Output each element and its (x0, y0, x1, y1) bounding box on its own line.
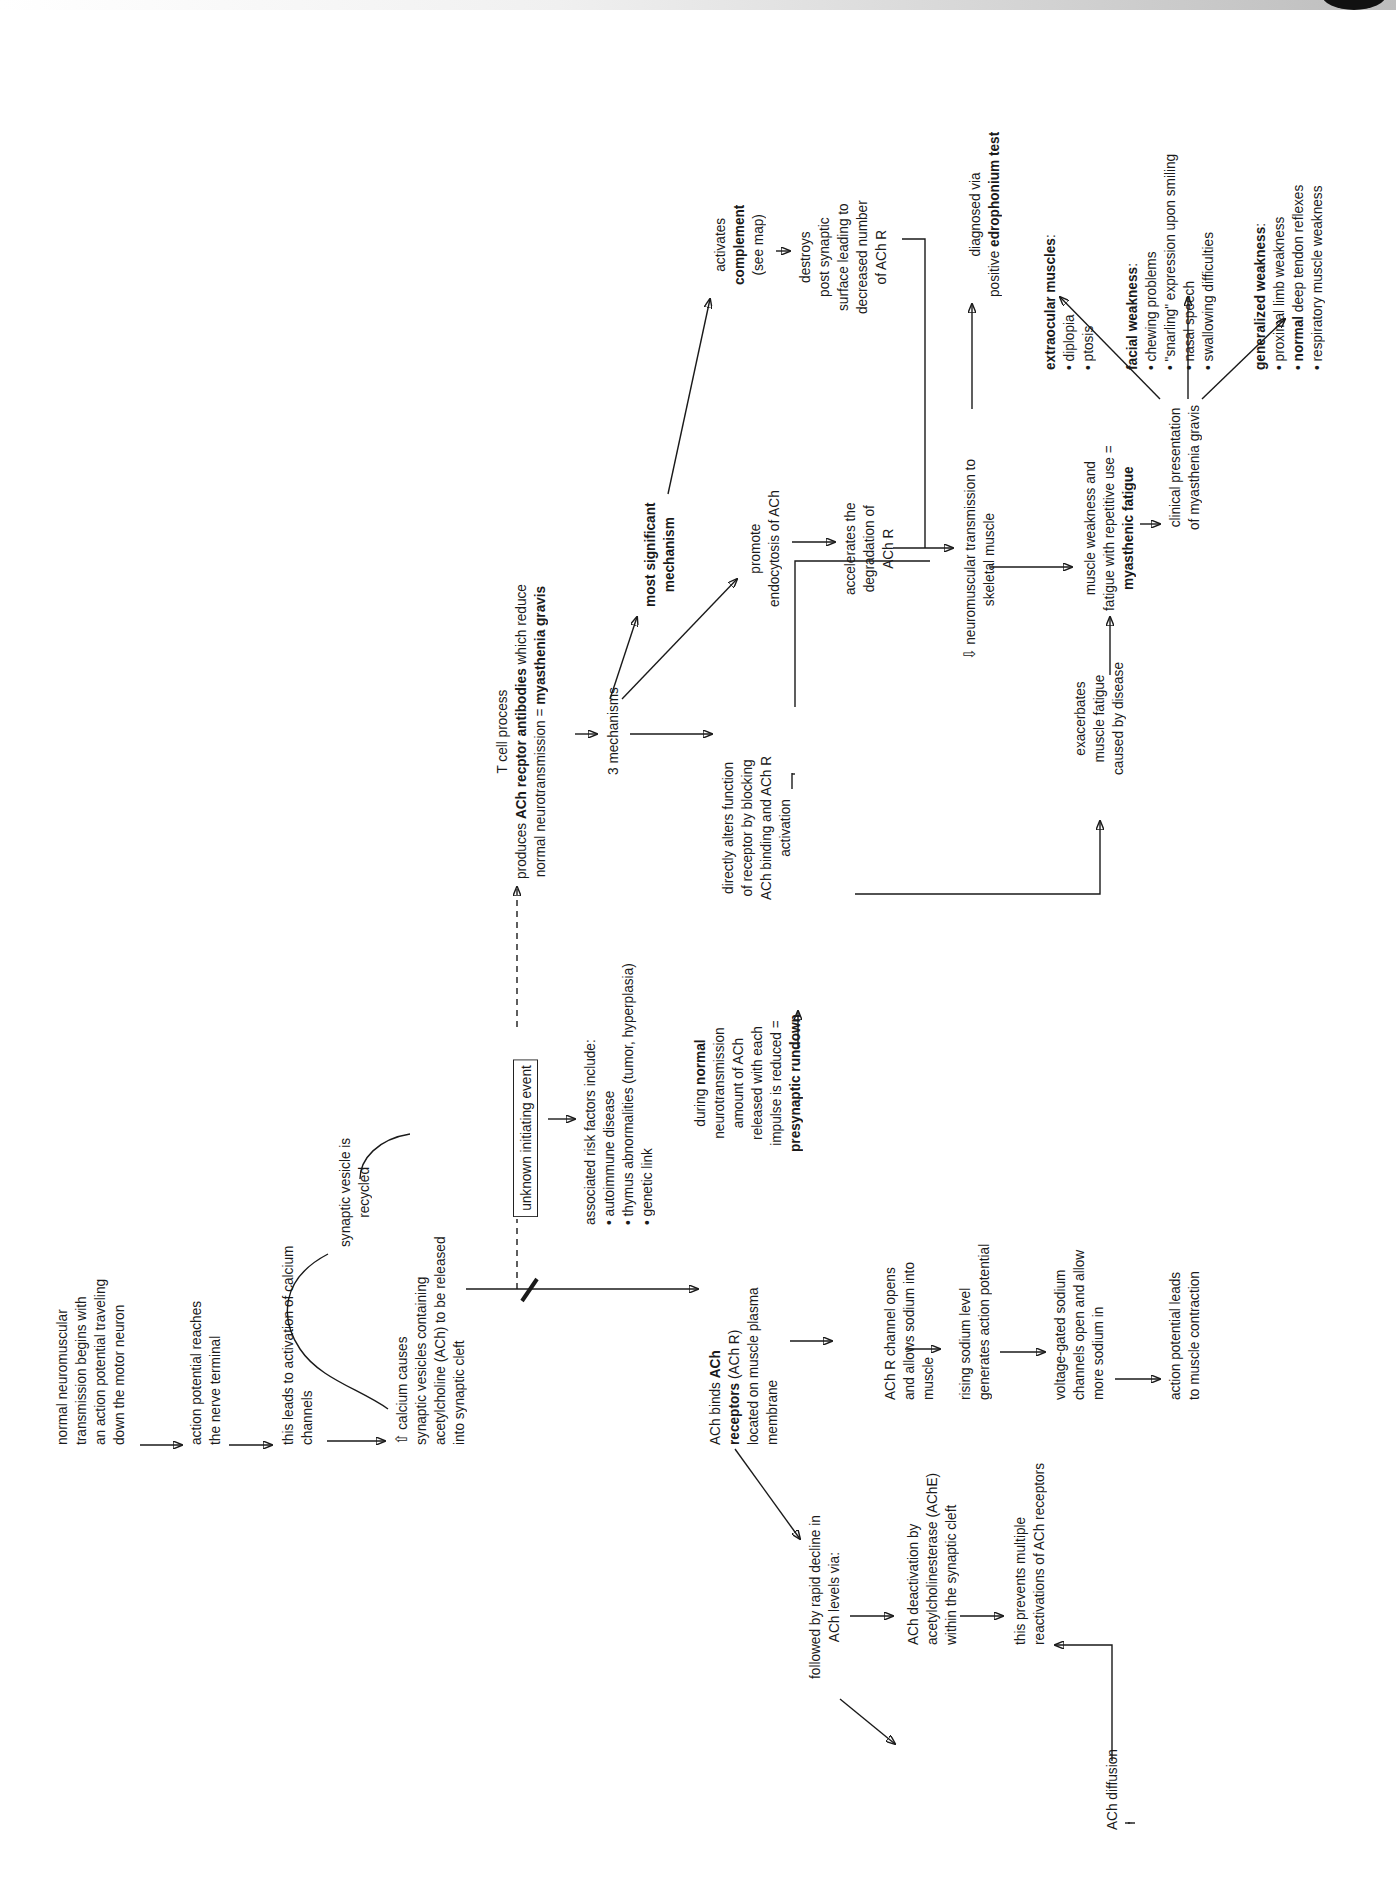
connector-directly-alters-merge (0, 0, 1396, 1879)
concept-map-canvas: normal neuromuscular transmission begins… (0, 0, 1396, 1879)
